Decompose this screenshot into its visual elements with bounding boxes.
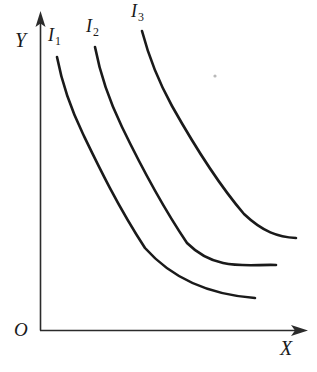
curve-label-i1: I1 — [48, 26, 60, 44]
scan-speck — [213, 74, 216, 77]
curve-label-i3: I3 — [131, 2, 143, 20]
curve-i1 — [57, 57, 255, 298]
curve-label-i2-subscript: 2 — [93, 25, 99, 39]
curve-i2 — [95, 47, 276, 265]
indifference-curve-figure: Y X O I1 I2 I3 — [0, 0, 317, 372]
curve-label-i3-subscript: 3 — [138, 10, 144, 24]
figure-canvas — [0, 0, 317, 372]
curve-label-i1-letter: I — [48, 25, 54, 45]
y-axis-label: Y — [15, 30, 26, 50]
curve-label-i1-subscript: 1 — [55, 34, 61, 48]
curve-label-i3-letter: I — [131, 1, 137, 21]
curve-label-i2: I2 — [86, 17, 98, 35]
origin-label: O — [14, 320, 28, 339]
curve-label-i2-letter: I — [86, 16, 92, 36]
x-axis-label: X — [280, 338, 292, 358]
